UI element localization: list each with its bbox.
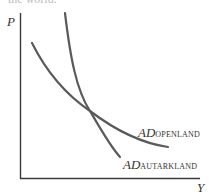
ad-openland-label: ADOPENLAND	[138, 125, 200, 141]
ad-autarkland-label: ADAUTARKLAND	[123, 157, 197, 173]
y-axis-label: P	[7, 14, 15, 30]
ad-autarkland-curve	[65, 13, 120, 157]
x-axis-label: Y	[197, 180, 204, 195]
ad-autarkland-subscript: AUTARKLAND	[140, 162, 197, 171]
ad-openland-name: AD	[138, 125, 155, 140]
ad-openland-subscript: OPENLAND	[155, 130, 200, 139]
ad-autarkland-name: AD	[123, 157, 140, 172]
